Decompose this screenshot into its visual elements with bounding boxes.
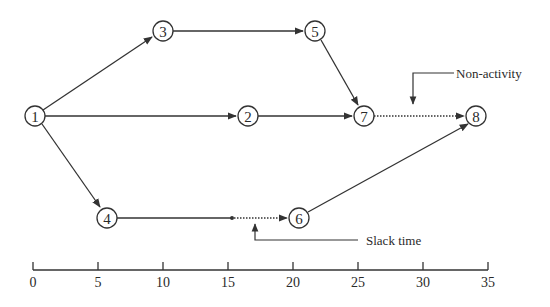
node-1: 1	[25, 106, 45, 126]
edge-5-7	[321, 40, 358, 105]
slack-time-label: Slack time	[366, 233, 421, 248]
svg-text:1: 1	[31, 109, 39, 125]
node-3: 3	[153, 21, 173, 41]
svg-text:2: 2	[244, 109, 252, 125]
edge-6-8	[308, 124, 468, 212]
svg-text:3: 3	[159, 24, 167, 40]
svg-text:5: 5	[311, 24, 319, 40]
svg-text:8: 8	[472, 109, 480, 125]
tick-label: 5	[95, 275, 102, 290]
svg-text:6: 6	[295, 211, 303, 227]
node-8: 8	[466, 106, 486, 126]
tick-label: 0	[30, 275, 37, 290]
edge-1-4	[42, 124, 100, 207]
edge-1-3	[43, 37, 152, 110]
edges	[42, 31, 468, 220]
nodes: 1 2 3 4 5 6 7 8	[25, 21, 486, 228]
node-7: 7	[354, 106, 374, 126]
time-axis: 0 5 10 15 20 25 30 35	[30, 262, 496, 290]
slack-time-callout: Slack time	[255, 224, 421, 248]
tick-label: 35	[481, 275, 495, 290]
svg-text:4: 4	[103, 211, 111, 227]
network-diagram: 1 2 3 4 5 6 7 8	[0, 0, 550, 307]
tick-label: 25	[351, 275, 365, 290]
non-activity-label: Non-activity	[456, 66, 522, 81]
node-2: 2	[238, 106, 258, 126]
node-5: 5	[305, 21, 325, 41]
non-activity-callout: Non-activity	[413, 66, 522, 105]
tick-label: 15	[221, 275, 235, 290]
slack-start-point	[230, 216, 234, 220]
tick-label: 30	[416, 275, 430, 290]
tick-label: 10	[156, 275, 170, 290]
tick-label: 20	[286, 275, 300, 290]
svg-text:7: 7	[360, 109, 368, 125]
node-4: 4	[97, 208, 117, 228]
node-6: 6	[289, 208, 309, 228]
